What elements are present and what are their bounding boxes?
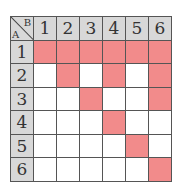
column-header: 4 <box>103 17 125 40</box>
row-header: 3 <box>11 88 33 111</box>
row-header: 4 <box>11 111 33 134</box>
highlighted-cell <box>149 64 171 87</box>
empty-cell <box>34 135 56 158</box>
empty-cell <box>126 158 148 181</box>
highlighted-cell <box>57 41 79 64</box>
empty-cell <box>80 64 102 87</box>
divisibility-grid: B A 123456123456 <box>10 16 172 182</box>
highlighted-cell <box>34 41 56 64</box>
empty-cell <box>126 64 148 87</box>
column-header: 5 <box>126 17 148 40</box>
column-header: 1 <box>34 17 56 40</box>
highlighted-cell <box>80 41 102 64</box>
column-header: 2 <box>57 17 79 40</box>
row-header: 1 <box>11 41 33 64</box>
empty-cell <box>103 88 125 111</box>
empty-cell <box>57 88 79 111</box>
highlighted-cell <box>103 64 125 87</box>
row-axis-label: A <box>12 29 19 40</box>
empty-cell <box>126 88 148 111</box>
empty-cell <box>34 158 56 181</box>
column-header: 3 <box>80 17 102 40</box>
empty-cell <box>34 88 56 111</box>
highlighted-cell <box>80 88 102 111</box>
highlighted-cell <box>126 135 148 158</box>
empty-cell <box>34 111 56 134</box>
highlighted-cell <box>126 41 148 64</box>
empty-cell <box>103 158 125 181</box>
empty-cell <box>126 111 148 134</box>
empty-cell <box>34 64 56 87</box>
row-header: 2 <box>11 64 33 87</box>
empty-cell <box>149 135 171 158</box>
corner-cell: B A <box>11 17 33 40</box>
highlighted-cell <box>103 41 125 64</box>
empty-cell <box>57 158 79 181</box>
row-header: 5 <box>11 135 33 158</box>
empty-cell <box>80 135 102 158</box>
highlighted-cell <box>149 41 171 64</box>
column-axis-label: B <box>24 17 31 28</box>
highlighted-cell <box>103 111 125 134</box>
empty-cell <box>103 135 125 158</box>
highlighted-cell <box>57 64 79 87</box>
empty-cell <box>57 111 79 134</box>
empty-cell <box>80 111 102 134</box>
highlighted-cell <box>149 88 171 111</box>
column-header: 6 <box>149 17 171 40</box>
empty-cell <box>149 111 171 134</box>
empty-cell <box>57 135 79 158</box>
empty-cell <box>80 158 102 181</box>
highlighted-cell <box>149 158 171 181</box>
row-header: 6 <box>11 158 33 181</box>
